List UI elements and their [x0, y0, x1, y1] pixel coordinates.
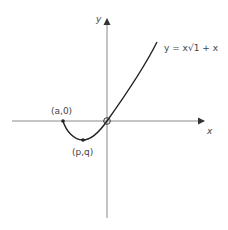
point-a0	[61, 119, 65, 123]
x-axis-label: x	[206, 126, 213, 136]
equation-label: y = x√1 + x	[164, 43, 219, 53]
point-a0-label: (a,0)	[51, 106, 72, 116]
y-axis-label: y	[95, 14, 102, 24]
point-pq	[81, 138, 85, 142]
point-pq-label: (p,q)	[72, 147, 93, 157]
curve	[63, 42, 157, 140]
graph-diagram: y x (a,0) (p,q) y = x√1 + x	[0, 0, 228, 230]
